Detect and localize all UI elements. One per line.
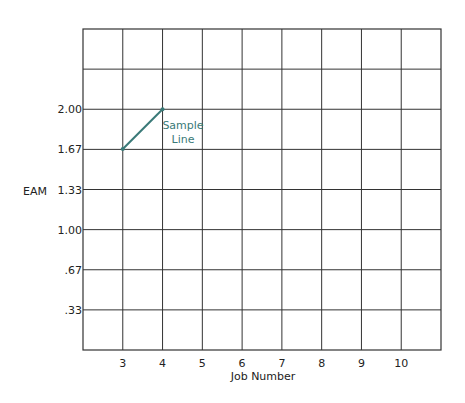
- x-tick-label: 5: [199, 357, 206, 370]
- chart-grid: [83, 29, 441, 350]
- data-point: [121, 147, 125, 151]
- x-tick-label: 8: [318, 357, 325, 370]
- x-tick-label: 7: [278, 357, 285, 370]
- y-axis-label: EAM: [23, 185, 47, 198]
- y-tick-label: .67: [65, 264, 83, 277]
- y-axis-ticks: .33.671.001.331.672.00: [58, 103, 83, 317]
- x-tick-label: 3: [119, 357, 126, 370]
- x-tick-label: 9: [358, 357, 365, 370]
- x-axis-ticks: 345678910: [119, 357, 408, 370]
- sample-line: [123, 109, 163, 149]
- chart: .33.671.001.331.672.00 345678910 EAM Job…: [0, 0, 465, 403]
- sample-line-annotation-line2: Line: [172, 133, 195, 146]
- y-tick-label: 1.33: [58, 184, 83, 197]
- x-tick-label: 6: [239, 357, 246, 370]
- y-tick-label: 1.00: [58, 224, 83, 237]
- y-tick-label: 2.00: [58, 103, 83, 116]
- data-point: [161, 107, 165, 111]
- data-series: [121, 107, 165, 151]
- y-tick-label: 1.67: [58, 143, 83, 156]
- sample-line-annotation: Sample: [162, 119, 203, 132]
- x-tick-label: 4: [159, 357, 166, 370]
- x-axis-label: Job Number: [230, 370, 296, 383]
- y-tick-label: .33: [65, 304, 83, 317]
- x-tick-label: 10: [394, 357, 408, 370]
